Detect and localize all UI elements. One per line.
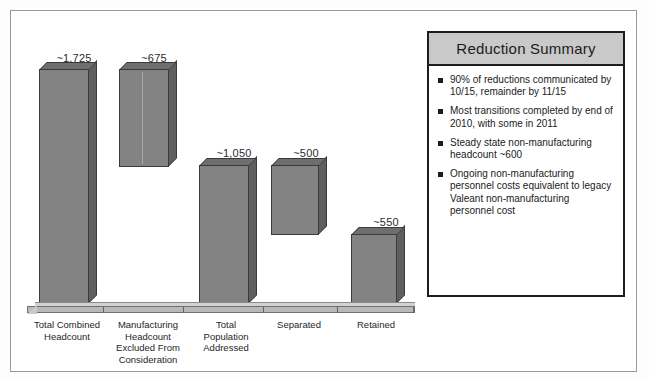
summary-panel-body: 90% of reductions communicated by 10/15,…: [429, 66, 623, 217]
bar-side-face: [396, 225, 405, 304]
axis-tick: [337, 307, 338, 313]
axis-tick: [183, 307, 184, 313]
summary-panel-title: Reduction Summary: [456, 40, 595, 57]
bar-separated[interactable]: [271, 165, 319, 235]
summary-bullet-text: 90% of reductions communicated by 10/15,…: [450, 74, 614, 98]
bar-retained[interactable]: [351, 234, 397, 304]
summary-bullet-item: 90% of reductions communicated by 10/15,…: [436, 74, 614, 98]
axis-category-label: Manufacturing Headcount Excluded From Co…: [105, 319, 191, 365]
bar-side-face: [248, 156, 257, 304]
summary-bullet-item: Ongoing non-manufacturing personnel cost…: [436, 168, 614, 217]
summary-bullet-text: Ongoing non-manufacturing personnel cost…: [450, 168, 614, 217]
x-axis-floor: [27, 302, 415, 315]
summary-panel-header: Reduction Summary: [429, 33, 623, 66]
axis-tick: [263, 307, 264, 313]
bar-seam: [142, 72, 143, 164]
bar-total-population-addressed[interactable]: [199, 165, 249, 304]
bar-front-face: [271, 165, 319, 235]
summary-bullet-text: Most transitions completed by end of 201…: [450, 105, 614, 129]
slide-frame: ~1,725 ~675 ~1,050 ~500 ~550: [10, 10, 637, 372]
summary-bullet-item: Most transitions completed by end of 201…: [436, 105, 614, 129]
bar-total-combined-headcount[interactable]: [39, 69, 89, 304]
square-bullet-icon: [438, 109, 443, 114]
axis-tick: [103, 307, 104, 313]
axis-floor-face: [27, 306, 415, 313]
axis-category-label: Total Population Addressed: [189, 319, 263, 354]
square-bullet-icon: [438, 78, 443, 83]
bar-side-face: [168, 60, 177, 167]
axis-category-label: Total Combined Headcount: [25, 319, 109, 342]
reduction-summary-panel: Reduction Summary 90% of reductions comm…: [427, 31, 625, 297]
summary-bullet-text: Steady state non-manufacturing headcount…: [450, 137, 614, 161]
bar-chart: ~1,725 ~675 ~1,050 ~500 ~550: [11, 11, 431, 373]
bar-front-face: [351, 234, 397, 304]
square-bullet-icon: [438, 172, 443, 177]
bar-front-face: [199, 165, 249, 304]
bar-side-face: [318, 156, 327, 235]
bar-side-face: [88, 60, 97, 304]
axis-category-label: Separated: [261, 319, 337, 331]
bar-manufacturing-headcount-excluded[interactable]: [119, 69, 169, 167]
axis-category-label: Retained: [337, 319, 415, 331]
square-bullet-icon: [438, 141, 443, 146]
slide-canvas: ~1,725 ~675 ~1,050 ~500 ~550: [0, 0, 649, 380]
bar-front-face: [119, 69, 169, 167]
axis-tick: [413, 307, 414, 313]
summary-bullet-item: Steady state non-manufacturing headcount…: [436, 137, 614, 161]
bar-front-face: [39, 69, 89, 304]
